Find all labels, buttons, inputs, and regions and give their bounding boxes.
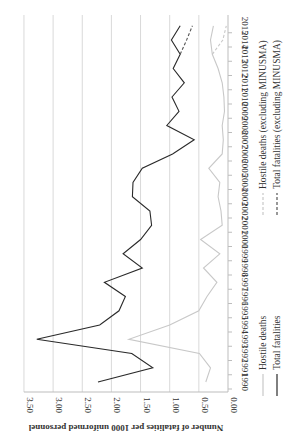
legend-label: Total fatalities (excluding MINUSMA) <box>272 40 283 189</box>
category-tick-label: 2015 <box>240 17 250 36</box>
value-axis-title: Number of fatalities per 1000 uniformed … <box>28 423 223 433</box>
value-tick-label: 2.50 <box>83 397 93 413</box>
axes <box>24 33 232 392</box>
fatalities-chart: 0.000.501.001.502.002.503.003.5019901991… <box>0 0 291 440</box>
value-tick-label: 2.00 <box>112 397 122 413</box>
legend-label: Hostile deaths (excluding MINUSMA) <box>258 40 269 189</box>
series-line-hostile-deaths-excluding-minusma <box>212 26 226 55</box>
value-tick-label: 3.00 <box>54 397 64 413</box>
value-tick-label: 3.50 <box>25 397 35 413</box>
axis-labels: 0.000.501.001.502.002.503.003.5019901991… <box>25 17 250 433</box>
value-tick-label: 0.50 <box>200 397 210 413</box>
value-tick-label: 1.00 <box>171 397 181 413</box>
data-series <box>37 26 227 382</box>
series-line-hostile-deaths <box>129 26 225 382</box>
legend-label: Total fatalities <box>272 315 282 370</box>
legend-label: Hostile deaths <box>258 316 268 370</box>
series-line-total-fatalities-excluding-minusma <box>180 26 192 55</box>
series-line-total-fatalities <box>37 26 194 382</box>
chart-canvas: 0.000.501.001.502.002.503.003.5019901991… <box>0 0 291 440</box>
legend: Hostile deathsTotal fatalitiesHostile de… <box>258 40 283 396</box>
value-tick-label: 1.50 <box>142 397 152 413</box>
value-tick-label: 0.00 <box>229 397 239 413</box>
